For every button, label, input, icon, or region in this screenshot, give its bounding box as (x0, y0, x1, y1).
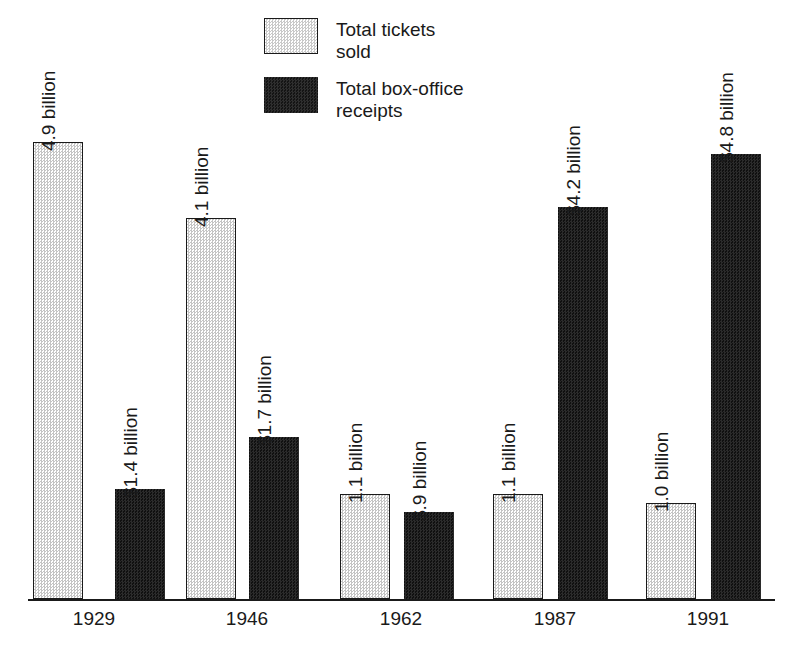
bar-value-label-1987-receipts: $4.2 billion (564, 125, 583, 216)
bar-1991-receipts (711, 154, 761, 599)
bar-1962-receipts (404, 512, 454, 599)
bar-value-label-1962-receipts: $.9 billion (410, 441, 429, 521)
bar-1946-receipts (249, 437, 299, 599)
bar-value-label-1987-tickets: 1.1 billion (499, 423, 518, 503)
x-tick-label-1929: 1929 (34, 608, 154, 630)
bar-1991-tickets (646, 503, 696, 599)
bar-value-label-1946-tickets: 4.1 billion (192, 147, 211, 227)
x-axis-line (28, 599, 775, 601)
x-tick-label-1987: 1987 (495, 608, 615, 630)
bar-1929-tickets (33, 142, 83, 599)
bar-1987-tickets (493, 494, 543, 599)
x-tick-label-1946: 1946 (187, 608, 307, 630)
bar-1962-tickets (340, 494, 390, 599)
bar-value-label-1929-tickets: 4.9 billion (39, 71, 58, 151)
plot-area: 4.9 billion$1.4 billion4.1 billion$1.7 b… (0, 0, 787, 652)
bar-value-label-1962-tickets: 1.1 billion (346, 423, 365, 503)
bar-value-label-1991-tickets: 1.0 billion (652, 432, 671, 512)
x-tick-label-1962: 1962 (341, 608, 461, 630)
bar-value-label-1991-receipts: $4.8 billion (717, 72, 736, 163)
bar-chart: Total tickets sold Total box-office rece… (0, 0, 787, 652)
bar-1946-tickets (186, 218, 236, 599)
bar-1987-receipts (558, 207, 608, 599)
bar-1929-receipts (115, 489, 165, 599)
bar-value-label-1946-receipts: $1.7 billion (255, 355, 274, 446)
x-tick-label-1991: 1991 (648, 608, 768, 630)
bar-value-label-1929-receipts: $1.4 billion (121, 407, 140, 498)
